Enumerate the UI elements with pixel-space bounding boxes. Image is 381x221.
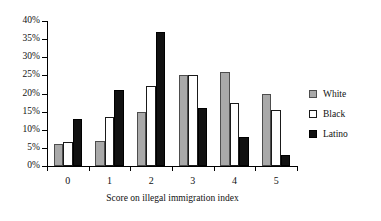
x-axis-title: Score on illegal immigration index bbox=[47, 193, 298, 204]
bar-latino-1 bbox=[114, 90, 124, 166]
bar-white-5 bbox=[262, 94, 272, 167]
y-axis-tick-label: 25% bbox=[0, 70, 40, 80]
x-axis-tick bbox=[255, 166, 256, 171]
bar-white-2 bbox=[137, 112, 147, 166]
y-axis-tick-label: 30% bbox=[0, 52, 40, 62]
legend-item-label: Black bbox=[323, 109, 345, 119]
bar-black-0 bbox=[63, 142, 73, 166]
legend-swatch-icon bbox=[309, 90, 317, 98]
bar-black-4 bbox=[230, 103, 240, 166]
legend-item-label: Latino bbox=[323, 129, 348, 139]
x-axis-tick-label-3: 3 bbox=[178, 175, 208, 186]
x-axis-tick-label-1: 1 bbox=[95, 175, 125, 186]
bar-latino-2 bbox=[156, 32, 166, 166]
x-axis-tick bbox=[172, 166, 173, 171]
bar-latino-0 bbox=[73, 119, 83, 166]
legend-item-white[interactable]: White bbox=[309, 86, 379, 102]
x-axis-tick bbox=[214, 166, 215, 171]
x-axis-tick bbox=[297, 166, 298, 171]
chart-legend: WhiteBlackLatino bbox=[309, 86, 379, 146]
x-axis-tick bbox=[89, 166, 90, 171]
x-axis-tick-label-5: 5 bbox=[261, 175, 291, 186]
legend-item-latino[interactable]: Latino bbox=[309, 126, 379, 142]
x-axis-tick bbox=[130, 166, 131, 171]
legend-swatch-icon bbox=[309, 110, 317, 118]
legend-item-label: White bbox=[323, 89, 346, 99]
bar-white-4 bbox=[220, 72, 230, 166]
bar-white-0 bbox=[54, 144, 64, 166]
bar-chart: 0%5%10%15%20%25%30%35%40% 012345 Score o… bbox=[0, 0, 381, 221]
y-axis-tick-label: 20% bbox=[0, 89, 40, 99]
y-axis-tick-label: 35% bbox=[0, 34, 40, 44]
y-axis-tick-label: 15% bbox=[0, 107, 40, 117]
bar-latino-3 bbox=[198, 108, 208, 166]
y-axis-tick-label: 40% bbox=[0, 16, 40, 26]
x-axis-tick-label-4: 4 bbox=[220, 175, 250, 186]
y-axis-tick-label: 0% bbox=[0, 161, 40, 171]
bar-black-2 bbox=[146, 86, 156, 166]
bar-latino-4 bbox=[239, 137, 249, 166]
x-axis-tick-label-2: 2 bbox=[136, 175, 166, 186]
bar-white-1 bbox=[95, 141, 105, 166]
y-axis-tick-label: 10% bbox=[0, 125, 40, 135]
y-axis-tick-label: 5% bbox=[0, 143, 40, 153]
x-axis-tick bbox=[47, 166, 48, 171]
bar-black-3 bbox=[188, 75, 198, 166]
bar-latino-5 bbox=[281, 155, 291, 166]
bar-white-3 bbox=[179, 75, 189, 166]
x-axis-tick-label-0: 0 bbox=[53, 175, 83, 186]
bar-black-1 bbox=[105, 117, 115, 166]
legend-item-black[interactable]: Black bbox=[309, 106, 379, 122]
legend-swatch-icon bbox=[309, 130, 317, 138]
plot-area bbox=[47, 21, 297, 166]
bar-black-5 bbox=[271, 110, 281, 166]
